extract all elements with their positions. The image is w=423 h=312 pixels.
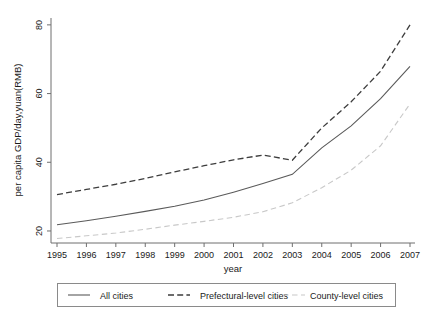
x-tick-label: 1998 (135, 250, 155, 260)
line-chart: 20406080 per capita GDP/day,yuan(RMB) 19… (0, 0, 423, 312)
legend-label: County-level cities (310, 291, 384, 301)
x-tick-label: 2007 (400, 250, 420, 260)
x-tick-label: 2000 (194, 250, 214, 260)
y-tick-label: 40 (34, 157, 44, 167)
x-axis-ticks: 1995199619971998199920002001200220032004… (47, 243, 420, 260)
chart-legend: All citiesPrefectural-level citiesCounty… (58, 284, 396, 307)
x-tick-label: 2003 (282, 250, 302, 260)
x-axis-group: 1995199619971998199920002001200220032004… (47, 243, 420, 274)
y-axis-group: 20406080 per capita GDP/day,yuan(RMB) (12, 18, 51, 243)
x-tick-label: 2005 (341, 250, 361, 260)
x-tick-label: 1995 (47, 250, 67, 260)
x-tick-label: 2002 (253, 250, 273, 260)
x-axis-title: year (224, 263, 242, 274)
y-axis-title: per capita GDP/day,yuan(RMB) (12, 64, 23, 197)
legend-items: All citiesPrefectural-level citiesCounty… (68, 291, 384, 301)
x-tick-label: 1999 (165, 250, 185, 260)
legend-label: Prefectural-level cities (200, 291, 289, 301)
x-tick-label: 2006 (371, 250, 391, 260)
series-lines (57, 25, 410, 239)
chart-container: 20406080 per capita GDP/day,yuan(RMB) 19… (0, 0, 423, 312)
x-tick-label: 2004 (312, 250, 332, 260)
series-line (57, 25, 410, 195)
y-tick-label: 80 (34, 20, 44, 30)
x-tick-label: 1997 (106, 250, 126, 260)
series-line (57, 66, 410, 224)
x-tick-label: 2001 (223, 250, 243, 260)
y-axis-ticks: 20406080 (34, 20, 51, 236)
x-tick-label: 1996 (76, 250, 96, 260)
y-tick-label: 20 (34, 226, 44, 236)
legend-label: All cities (100, 291, 134, 301)
y-tick-label: 60 (34, 89, 44, 99)
series-line (57, 104, 410, 239)
